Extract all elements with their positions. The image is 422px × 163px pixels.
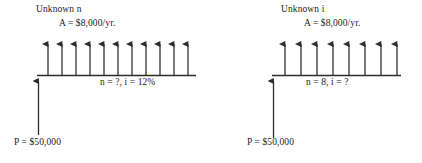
right-principal-label: P = $50,000 xyxy=(247,137,294,148)
cash-flow-diagram-figure: Unknown n A = $8,000/yr. n = ?, i = 12% … xyxy=(0,0,422,163)
left-principal-label: P = $50,000 xyxy=(14,137,61,148)
right-timeline-label: n = 8, i = ? xyxy=(306,77,349,88)
left-cash-flow-diagram xyxy=(37,44,196,135)
right-diagram-title: Unknown i xyxy=(281,4,324,15)
right-cash-flow-diagram xyxy=(272,44,401,138)
left-annuity-arrows xyxy=(48,44,188,75)
left-timeline-label: n = ?, i = 12% xyxy=(100,77,155,88)
left-diagram-title: Unknown n xyxy=(36,4,82,15)
right-annuity-label: A = $8,000/yr. xyxy=(304,18,360,29)
right-annuity-arrows xyxy=(285,44,397,75)
left-annuity-label: A = $8,000/yr. xyxy=(59,18,115,29)
